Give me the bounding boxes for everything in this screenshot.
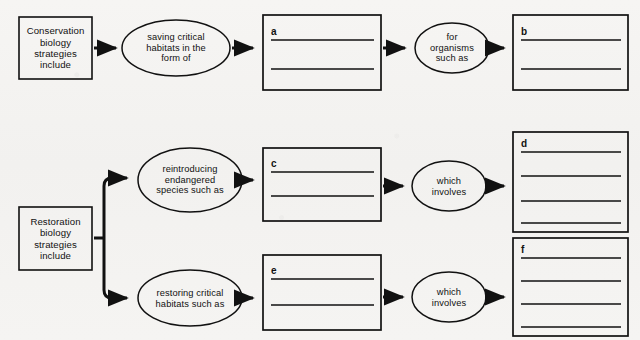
answer-box-c-letter: c	[271, 159, 277, 169]
branch-trunk	[94, 178, 117, 238]
answer-box-b-letter: b	[521, 27, 527, 37]
answer-box-d	[513, 132, 628, 232]
node-conservation-start	[19, 17, 92, 79]
concept-map-diagram: Conservation biology strategies include …	[0, 0, 640, 340]
answer-box-a-letter: a	[271, 27, 277, 37]
node-saving-habitats	[122, 20, 230, 76]
branch-trunk-lower	[104, 238, 117, 298]
node-restoring-habitats	[138, 270, 242, 326]
answer-box-e	[263, 255, 381, 330]
node-which-involves-lower	[412, 272, 486, 322]
answer-box-d-letter: d	[521, 139, 527, 149]
answer-box-b	[513, 15, 628, 90]
node-which-involves-upper	[412, 161, 486, 211]
node-reintroducing-species	[138, 148, 242, 212]
node-for-organisms	[415, 23, 489, 73]
answer-box-f	[513, 238, 628, 336]
answer-box-c	[263, 148, 381, 221]
diagram-vector-layer	[0, 0, 640, 340]
node-restoration-start	[19, 207, 92, 270]
answer-box-e-letter: e	[271, 266, 277, 276]
answer-box-f-letter: f	[521, 245, 524, 255]
answer-box-a	[263, 15, 381, 90]
